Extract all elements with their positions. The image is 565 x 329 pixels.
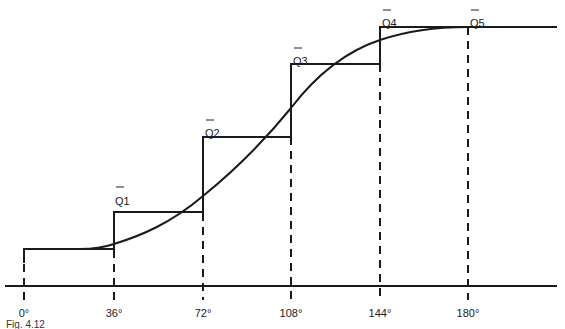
diagram-canvas: Q1 Q2 Q3 Q4 Q5 0° 36° 72° 108° 144° 180° (0, 0, 565, 329)
tick-180: 180° (457, 307, 480, 319)
tick-labels: 0° 36° 72° 108° 144° 180° (19, 307, 480, 319)
label-q4: Q4 (382, 17, 397, 29)
label-q5: Q5 (470, 17, 485, 29)
tick-72: 72° (195, 307, 212, 319)
step-labels: Q1 Q2 Q3 Q4 Q5 (115, 10, 485, 207)
tick-108: 108° (280, 307, 303, 319)
label-q3: Q3 (293, 55, 308, 67)
label-q1: Q1 (115, 195, 130, 207)
tick-0: 0° (19, 307, 30, 319)
label-q2: Q2 (205, 127, 220, 139)
figure-caption: Fig. 4.12 (6, 320, 45, 329)
dashed-guides (24, 27, 468, 300)
tick-36: 36° (106, 307, 123, 319)
tick-144: 144° (369, 307, 392, 319)
